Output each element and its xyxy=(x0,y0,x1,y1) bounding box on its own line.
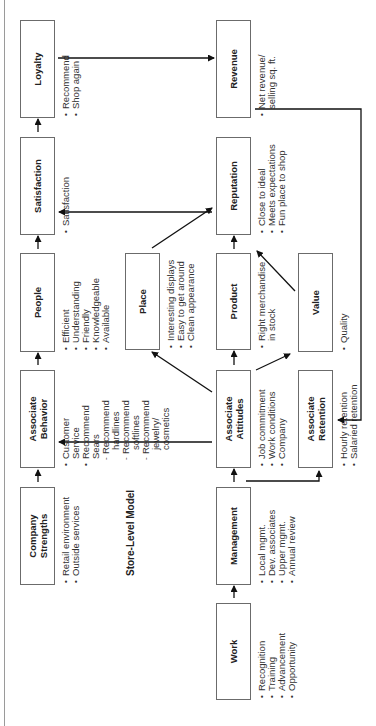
connector-arrows xyxy=(0,0,376,726)
store-level-model-diagram: Store-Level Model Loyalty Recommend Shop… xyxy=(0,0,376,726)
arrow-associate-attitudes-to-value xyxy=(256,354,290,370)
arrow-associate-attitudes-to-associate-retention xyxy=(246,471,319,481)
arrow-associate-attitudes-to-place xyxy=(152,352,212,392)
arrow-value-to-reputation xyxy=(257,251,295,291)
arrow-place-to-reputation xyxy=(152,208,212,248)
arrow-revenue-to-associate-retention xyxy=(255,109,361,420)
